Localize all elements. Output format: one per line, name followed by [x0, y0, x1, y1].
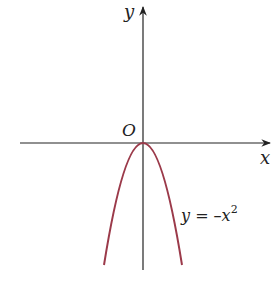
parabola-diagram: y x O y = –x2: [0, 0, 273, 282]
x-axis-label: x: [260, 147, 270, 168]
curve-label: y = –x2: [180, 203, 238, 225]
y-axis-label: y: [123, 1, 135, 22]
origin-label: O: [122, 120, 136, 140]
exponent: 2: [231, 203, 238, 216]
